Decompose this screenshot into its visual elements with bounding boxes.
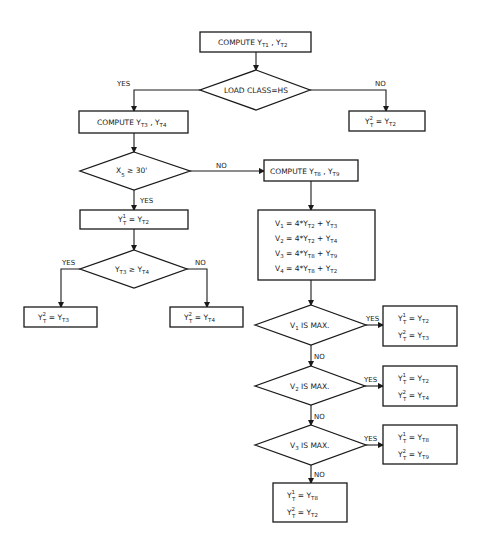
node-compute-t8-t9: COMPUTE YT8 , YT9 (264, 160, 358, 181)
label-yes-v3: YES (363, 435, 378, 443)
node-compute-t1-t2: COMPUTE YT1 , YT2 (200, 32, 311, 52)
label-yes-x5: YES (139, 197, 154, 205)
node-compute-t3-t4: COMPUTE YT3 , YT4 (79, 111, 188, 133)
node-no-hs-result: Y2T = YT2 (349, 111, 425, 131)
node-x5-decision: X5 ≥ 30' (80, 152, 190, 190)
svg-text:V2 = 4*YT2 + YT4: V2 = 4*YT2 + YT4 (275, 234, 338, 244)
svg-text:COMPUTE YT8 , YT9: COMPUTE YT8 , YT9 (270, 167, 340, 177)
node-yes-x5-result: Y1T = YT2 (80, 210, 188, 229)
label-no-v2: NO (314, 413, 325, 421)
label-no-v1: NO (314, 353, 325, 361)
svg-text:COMPUTE YT3 , YT4: COMPUTE YT3 , YT4 (97, 118, 167, 128)
flowchart: YES NO NO YES YES NO YES NO YES NO YES N… (0, 0, 483, 552)
label-no-x5: NO (216, 162, 227, 170)
svg-text:V1 = 4*YT2 + YT3: V1 = 4*YT2 + YT3 (275, 219, 338, 229)
node-v3-max-decision: V3 IS MAX. (255, 425, 366, 465)
node-v3-result: Y1T = YT8 Y2T = YT9 (383, 425, 457, 464)
label-yes-v2: YES (363, 376, 378, 384)
label-yes-load: YES (116, 80, 131, 88)
node-v2-max-decision: V2 IS MAX. (255, 366, 365, 405)
svg-text:LOAD CLASS=HS: LOAD CLASS=HS (224, 86, 288, 95)
node-t3-no-result: Y2T = YT4 (170, 307, 243, 327)
label-no-v3: NO (314, 471, 325, 479)
node-v1-result: Y1T = YT2 Y2T = YT3 (383, 306, 457, 346)
label-no-t3: NO (195, 259, 206, 267)
node-t3-yes-result: Y2T = YT3 (24, 307, 97, 327)
node-v2-result: Y1T = YT2 Y2T = YT4 (383, 366, 457, 406)
node-v1-max-decision: V1 IS MAX. (255, 305, 366, 345)
svg-text:V3 = 4*YT8 + YT9: V3 = 4*YT8 + YT9 (275, 249, 338, 259)
label-yes-t3: YES (61, 259, 76, 267)
label-yes-v1: YES (365, 315, 380, 323)
node-final-result: Y1T = YT8 Y2T = YT2 (273, 483, 347, 522)
node-v-equations: V1 = 4*YT2 + YT3 V2 = 4*YT2 + YT4 V3 = 4… (258, 210, 375, 280)
label-no-load: NO (375, 80, 386, 88)
node-t3-ge-t4-decision: YT3 ≥ YT4 (80, 250, 187, 288)
svg-text:V4 = 4*YT8 + YT2: V4 = 4*YT8 + YT2 (275, 264, 337, 274)
node-load-class-decision: LOAD CLASS=HS (200, 70, 310, 110)
svg-text:COMPUTE YT1 , YT2: COMPUTE YT1 , YT2 (218, 38, 287, 48)
